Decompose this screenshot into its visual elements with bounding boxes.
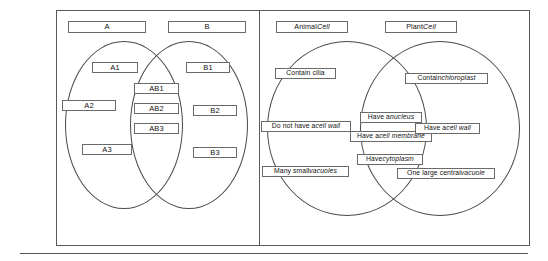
venn-item-no-cell-wall: Do not have a cell wall bbox=[261, 121, 351, 132]
venn-title-plant-cell: Plant Cell bbox=[385, 21, 457, 33]
contain-chloroplast-tail: chloroplast bbox=[442, 75, 476, 82]
venn-title-animal-cell: Animal Cell bbox=[276, 21, 348, 33]
venn-item-ab1: AB1 bbox=[134, 83, 179, 94]
venn-item-contain-cilia: Contain cilia bbox=[275, 68, 336, 79]
contain-cilia-head: Contain cilia bbox=[286, 70, 324, 77]
venn-item-one-large-central-vacuole: One large central vacuole bbox=[397, 168, 495, 179]
title-plant-tail: Cell bbox=[423, 23, 436, 30]
venn-item-a1: A1 bbox=[92, 62, 138, 73]
have-cell-wall-tail: cell wall bbox=[446, 125, 471, 132]
venn-item-have-cytoplasm: Have cytoplasm bbox=[357, 154, 423, 165]
figure-frame: A B A1 A2 A3 AB1 AB2 AB3 B1 B2 B3 Animal… bbox=[56, 10, 530, 246]
venn-item-have-nucleus: Have a nucleus bbox=[360, 112, 422, 123]
many-vacuoles-head: Many small bbox=[274, 168, 309, 175]
have-cytoplasm-head: Have bbox=[366, 156, 382, 163]
have-cell-membrane-tail: cell membrane bbox=[379, 133, 425, 140]
venn-item-contain-chloroplast: Contain chloroplast bbox=[405, 73, 488, 84]
contain-chloroplast-head: Contain bbox=[417, 75, 441, 82]
no-cell-wall-tail: cell wall bbox=[315, 123, 340, 130]
venn-item-b1: B1 bbox=[186, 62, 230, 73]
panel-cell-venn: Animal Cell Plant Cell Contain cilia Do … bbox=[260, 11, 531, 245]
no-cell-wall-head: Do not have a bbox=[272, 123, 316, 130]
venn-item-ab3: AB3 bbox=[134, 123, 179, 134]
title-animal-tail: Cell bbox=[317, 23, 330, 30]
venn-item-b3: B3 bbox=[193, 147, 237, 158]
title-animal-head: Animal bbox=[294, 23, 317, 30]
have-nucleus-head: Have a bbox=[368, 114, 390, 121]
have-cell-wall-head: Have a bbox=[424, 125, 446, 132]
title-plant-head: Plant bbox=[406, 23, 423, 30]
venn-item-b2: B2 bbox=[193, 105, 237, 116]
many-vacuoles-tail: vacuoles bbox=[309, 168, 337, 175]
one-large-vacuole-head: One large central bbox=[407, 170, 461, 177]
venn-title-b: B bbox=[168, 21, 246, 33]
have-cytoplasm-tail: cytoplasm bbox=[382, 156, 414, 163]
bottom-horizontal-rule bbox=[20, 253, 528, 254]
venn-item-have-cell-wall: Have a cell wall bbox=[415, 123, 480, 134]
panel-generic-venn: A B A1 A2 A3 AB1 AB2 AB3 B1 B2 B3 bbox=[57, 11, 259, 245]
one-large-vacuole-tail: vacuole bbox=[461, 170, 485, 177]
venn-title-a: A bbox=[68, 21, 146, 33]
have-nucleus-tail: nucleus bbox=[390, 114, 414, 121]
have-cell-membrane-head: Have a bbox=[357, 133, 379, 140]
venn-item-many-small-vacuoles: Many small vacuoles bbox=[262, 166, 349, 177]
venn-item-ab2: AB2 bbox=[134, 103, 179, 114]
venn-item-a3: A3 bbox=[82, 144, 132, 155]
venn-item-a2: A2 bbox=[62, 100, 116, 111]
